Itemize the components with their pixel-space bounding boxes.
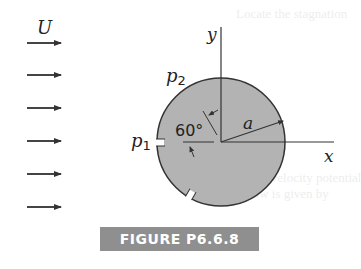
uniform-flow-arrows: [27, 43, 61, 207]
port-p2-label: p2: [166, 65, 186, 88]
figure-caption: FIGURE P6.6.8: [100, 227, 259, 251]
port-p1-label: p1: [131, 130, 151, 153]
radius-label: a: [243, 113, 253, 133]
y-axis-label: y: [206, 24, 217, 44]
flow-velocity-label: U: [37, 17, 53, 38]
angle-label: 60°: [175, 121, 203, 140]
pressure-port-p1: [154, 139, 164, 146]
x-axis-label: x: [324, 146, 334, 166]
